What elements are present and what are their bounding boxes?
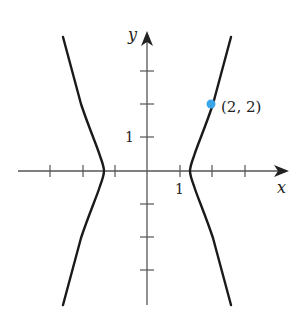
hyperbola-graph: (2, 2) y x 1 1 xyxy=(0,0,299,320)
point-label: (2, 2) xyxy=(221,98,261,116)
point-marker xyxy=(207,100,216,109)
x-tick-label-1: 1 xyxy=(175,181,184,197)
y-axis-label: y xyxy=(127,25,138,44)
y-tick-label-1: 1 xyxy=(125,129,134,145)
x-axis-label: x xyxy=(277,178,286,197)
